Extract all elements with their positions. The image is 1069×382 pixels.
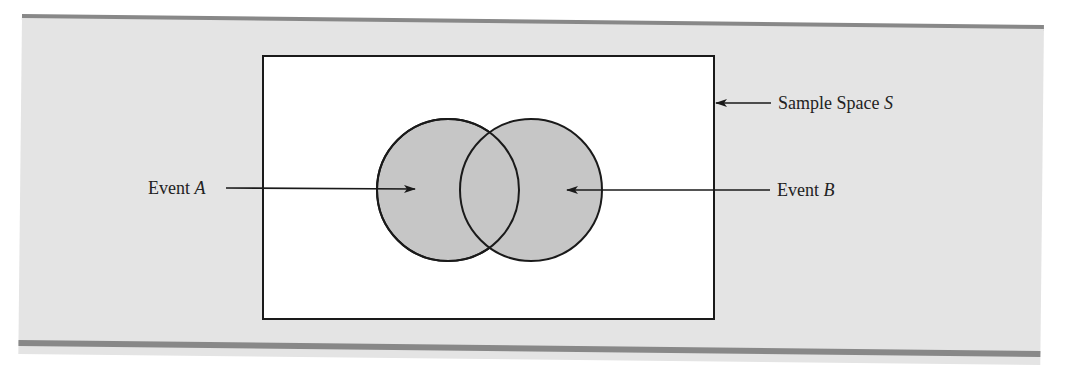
event-a-label: Event A [148, 179, 206, 197]
event-a-arrow [226, 188, 415, 189]
event-b-text: Event [777, 180, 819, 200]
sample-space-label: Sample Space S [778, 94, 893, 112]
event-b-symbol: B [824, 180, 835, 200]
event-a-symbol: A [195, 178, 206, 198]
sample-space-text: Sample Space [778, 93, 879, 113]
sample-space-symbol: S [884, 93, 893, 113]
event-b-label: Event B [777, 181, 835, 199]
event-a-text: Event [148, 178, 190, 198]
